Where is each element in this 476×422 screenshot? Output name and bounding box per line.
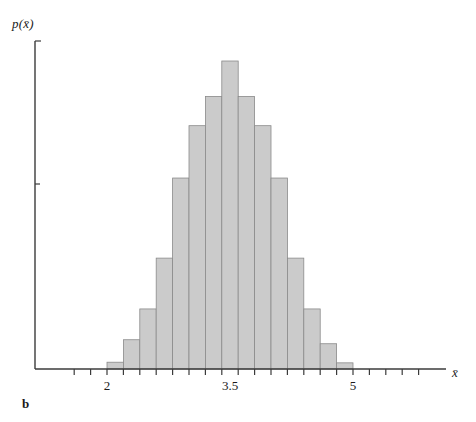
histogram-bar bbox=[271, 178, 287, 369]
histogram-bar bbox=[238, 96, 254, 369]
histogram-bar bbox=[304, 309, 320, 369]
histogram-figure: p(x̄) x̄ b 23.55 bbox=[0, 0, 476, 422]
histogram-bar bbox=[189, 126, 205, 369]
histogram-bar bbox=[222, 61, 238, 369]
histogram-bar bbox=[337, 363, 353, 369]
x-axis-tick-label: 2 bbox=[104, 378, 111, 394]
histogram-bar bbox=[255, 126, 271, 369]
histogram-bar bbox=[107, 362, 123, 369]
histogram-bars bbox=[107, 61, 353, 369]
histogram-bar bbox=[173, 178, 189, 369]
x-axis-tick-label: 3.5 bbox=[222, 378, 238, 394]
histogram-bar bbox=[156, 258, 172, 369]
histogram-bar bbox=[320, 344, 336, 369]
histogram-bar bbox=[140, 309, 156, 369]
histogram-plot-area bbox=[0, 0, 476, 422]
x-axis-tick-label: 5 bbox=[350, 378, 357, 394]
histogram-bar bbox=[123, 340, 139, 369]
histogram-bar bbox=[205, 96, 221, 369]
histogram-bar bbox=[287, 258, 303, 369]
x-axis-ticks bbox=[74, 369, 418, 375]
